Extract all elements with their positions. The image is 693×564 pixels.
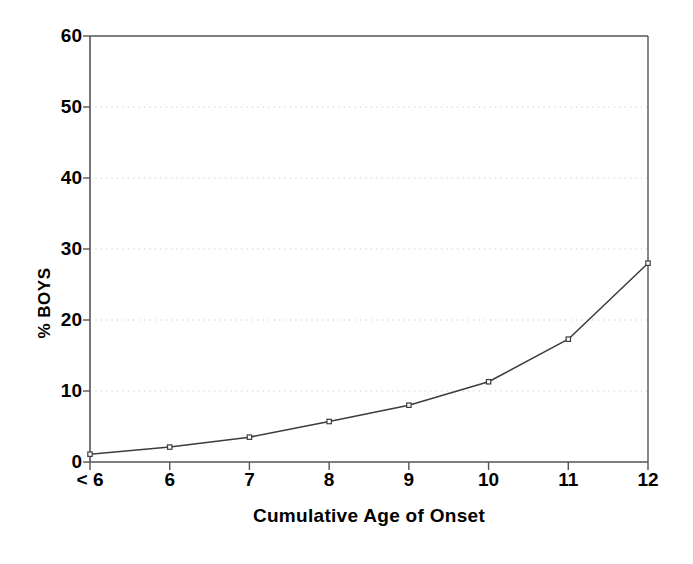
data-series-line [90, 263, 648, 454]
axis-lines [90, 36, 648, 462]
gridlines [90, 107, 648, 391]
axis-tick-marks [83, 36, 648, 470]
data-point-markers [88, 261, 650, 456]
chart-figure: % BOYS Cumulative Age of Onset 010203040… [0, 0, 693, 564]
plot-area [0, 0, 693, 564]
